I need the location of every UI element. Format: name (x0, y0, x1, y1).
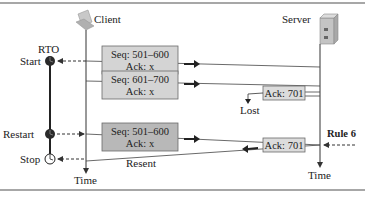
segment-2-ack: Ack: x (126, 86, 155, 97)
timer-stopped-icon (45, 154, 55, 164)
server-time-arrow (317, 162, 323, 168)
rule-6-label: Rule 6 (327, 128, 356, 139)
ack-1-label: Ack: 701 (265, 88, 304, 99)
client-time-label: Time (74, 174, 97, 186)
server-time-label: Time (308, 169, 331, 181)
client-label: Client (94, 13, 121, 25)
laptop-icon (76, 10, 94, 30)
timer-stop-label: Stop (20, 153, 41, 165)
server-tower-icon (320, 14, 338, 44)
lost-label: Lost (240, 104, 260, 116)
segment-3-seq: Seq: 501–600 (111, 126, 169, 137)
ack-2-label: Ack: 701 (265, 140, 304, 151)
segment-3-ack: Ack: x (126, 138, 155, 149)
segment-1-ack: Ack: x (126, 61, 155, 72)
timer-start-label: Start (20, 55, 41, 67)
ack-1-lost-path (248, 93, 263, 100)
segment-2-arrow (184, 80, 200, 88)
segment-1-seq: Seq: 501–600 (111, 49, 169, 60)
ack-2-arrow (242, 145, 258, 153)
segment-3-arrow (184, 135, 200, 143)
segment-1-arrow (184, 60, 200, 68)
timer-restart-label: Restart (3, 128, 34, 140)
resent-label: Resent (126, 157, 156, 169)
timer-running-icon (45, 56, 55, 66)
server-label: Server (282, 13, 311, 25)
segment-2-seq: Seq: 601–700 (111, 74, 169, 85)
rto-title: RTO (38, 43, 59, 55)
tcp-retransmission-diagram: Client Server Time Time RTO Start Restar… (0, 0, 365, 198)
timer-running-icon (45, 129, 55, 139)
